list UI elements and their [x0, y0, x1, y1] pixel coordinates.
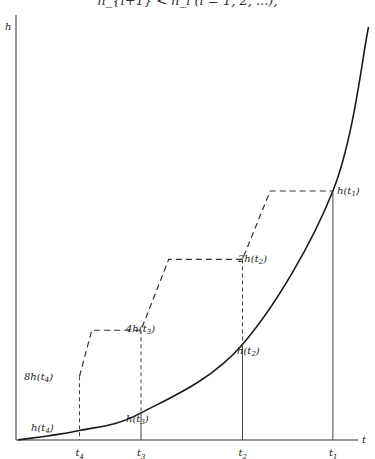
x-tick-label-t3: t3: [137, 447, 146, 459]
annotation-t1-curve: h(t1): [337, 185, 360, 198]
y-axis-label: h: [5, 21, 11, 32]
curve-h-of-t: [18, 27, 369, 440]
x-axis-label: t: [362, 434, 367, 445]
annotation-t2-curve: h(t2): [237, 345, 260, 358]
staircase-dashed: [80, 191, 333, 376]
figure-plot: h t t4t3t2t1h(t1)h(t2)h(t3)h(t4)2h(t2)4h…: [0, 0, 375, 459]
annotation-t3-stair: 4h(t3): [125, 323, 155, 336]
annotation-t2-stair: 2h(t2): [237, 253, 267, 266]
x-tick-label-t1: t1: [329, 447, 338, 459]
annotation-t4-curve: h(t4): [31, 422, 54, 435]
x-tick-label-t4: t4: [76, 447, 85, 459]
annotation-t4-stair: 8h(t4): [24, 371, 53, 384]
x-tick-label-t2: t2: [238, 447, 247, 459]
annotation-t3-curve: h(t3): [126, 413, 149, 426]
